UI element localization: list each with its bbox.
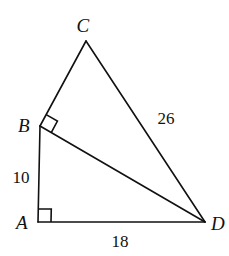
length-label-26: 26 <box>158 110 175 127</box>
diagram-canvas: CBAD 261018 <box>0 0 229 256</box>
segment-CD <box>86 41 205 222</box>
right-angle-A <box>38 209 51 222</box>
vertex-label-D: D <box>211 214 225 233</box>
segment-BC <box>40 41 86 126</box>
length-label-18: 18 <box>112 233 129 250</box>
length-label-10: 10 <box>13 169 30 186</box>
vertex-label-B: B <box>18 116 30 135</box>
geometry-figure <box>0 0 229 256</box>
segment-AB <box>38 126 40 222</box>
segment-BD <box>40 126 205 222</box>
segments-group <box>38 41 205 222</box>
vertex-label-C: C <box>77 16 90 35</box>
vertex-label-A: A <box>16 213 28 232</box>
